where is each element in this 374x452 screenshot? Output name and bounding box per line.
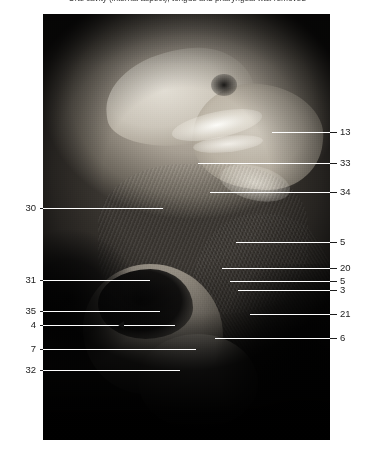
leader-line-20-outer — [330, 268, 337, 269]
label-number-35: 35 — [0, 306, 36, 316]
label-number-20: 20 — [340, 263, 351, 273]
pointer-arrow-icon — [118, 321, 124, 329]
label-number-31: 31 — [0, 275, 36, 285]
leader-line-33 — [198, 163, 330, 164]
leader-line-5 — [236, 242, 330, 243]
leader-line-13 — [272, 132, 330, 133]
leader-line-3-outer — [330, 290, 337, 291]
leader-line-5 — [230, 281, 330, 282]
dissection-image — [43, 14, 330, 440]
leader-line-30 — [43, 208, 163, 209]
label-number-4: 4 — [0, 320, 36, 330]
leader-line-4 — [43, 325, 175, 326]
leader-line-6-outer — [330, 338, 337, 339]
leader-line-3 — [238, 290, 330, 291]
leader-line-21-outer — [330, 314, 337, 315]
label-number-13: 13 — [340, 127, 351, 137]
label-number-32: 32 — [0, 365, 36, 375]
leader-line-20 — [222, 268, 330, 269]
leader-line-31 — [43, 280, 150, 281]
leader-line-7 — [43, 349, 196, 350]
label-number-3: 3 — [340, 285, 345, 295]
anatomy-photograph — [43, 14, 330, 440]
leader-line-5-outer — [330, 281, 337, 282]
leader-line-35 — [43, 311, 160, 312]
label-number-30: 30 — [0, 203, 36, 213]
label-number-7: 7 — [0, 344, 36, 354]
label-number-21: 21 — [340, 309, 351, 319]
leader-line-34-outer — [330, 192, 337, 193]
leader-line-5-outer — [330, 242, 337, 243]
leader-line-33-outer — [330, 163, 337, 164]
label-number-6: 6 — [340, 333, 345, 343]
leader-line-34 — [210, 192, 330, 193]
leader-line-21 — [250, 314, 330, 315]
image-grain — [43, 14, 330, 440]
leader-line-32 — [43, 370, 180, 371]
leader-line-13-outer — [330, 132, 337, 133]
label-number-34: 34 — [340, 187, 351, 197]
label-number-5: 5 — [340, 237, 345, 247]
label-number-33: 33 — [340, 158, 351, 168]
figure-caption: Oral cavity (internal aspect), tongue an… — [0, 0, 374, 3]
leader-line-6 — [215, 338, 330, 339]
